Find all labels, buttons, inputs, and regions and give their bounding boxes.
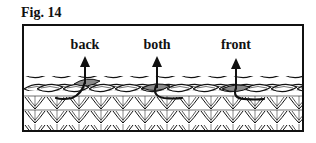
figure-title: Fig. 14 [21,5,61,21]
stitch-diagram-frame: back both front [22,24,304,132]
crochet-stitches-illustration [24,26,302,130]
stitch-rows [24,96,302,130]
